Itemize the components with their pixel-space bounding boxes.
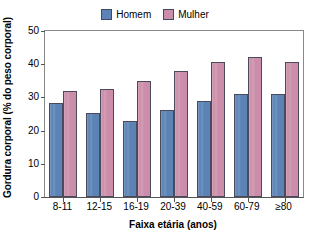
bar-homem-20-39 [160,110,174,197]
bar-series-container [45,31,303,197]
y-axis-tick-label: 30 [28,91,39,102]
legend-label-homem: Homem [116,9,151,20]
x-axis-tick-label: ≥80 [262,201,306,213]
chart-legend: Homem Mulher [0,6,310,22]
bar-homem-≥80 [271,94,285,197]
bar-group [85,31,115,197]
bar-mulher-20-39 [174,71,188,197]
bar-homem-16-19 [123,121,137,197]
bar-mulher-8-11 [63,91,77,197]
legend-swatch-homem [101,9,112,20]
plot-area: 01020304050 [44,30,304,198]
bar-group [270,31,300,197]
legend-swatch-mulher [163,9,174,20]
y-axis-title: Gordura corporal (% do peso corporal) [0,0,14,215]
y-axis-tick-label: 10 [28,158,39,169]
y-axis-tick-label: 0 [33,191,39,202]
bar-homem-40-59 [197,101,211,197]
y-axis-title-text: Gordura corporal (% do peso corporal) [2,17,13,198]
bar-mulher-60-79 [248,57,262,197]
bar-mulher-16-19 [137,81,151,197]
y-axis-tick-label: 50 [28,25,39,36]
y-axis-tick-mark [41,197,45,198]
bar-mulher-≥80 [285,62,299,197]
bar-group [159,31,189,197]
bar-homem-12-15 [86,113,100,197]
bar-group [48,31,78,197]
legend-label-mulher: Mulher [178,9,209,20]
bar-mulher-12-15 [100,89,114,197]
y-axis-tick-label: 20 [28,125,39,136]
legend-entry-homem: Homem [101,9,151,20]
bar-mulher-40-59 [211,62,225,197]
bar-homem-60-79 [234,94,248,197]
bar-group [122,31,152,197]
legend-entry-mulher: Mulher [163,9,209,20]
bar-group [233,31,263,197]
bar-chart-figure: Homem Mulher Gordura corporal (% do peso… [0,0,310,240]
x-axis-title: Faixa etária (anos) [44,219,302,230]
bar-group [196,31,226,197]
bar-homem-8-11 [49,103,63,197]
y-axis-tick-label: 40 [28,58,39,69]
